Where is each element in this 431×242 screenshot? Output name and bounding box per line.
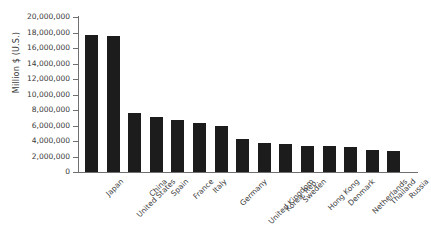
bar-slot: [232, 17, 254, 172]
y-axis-tick-label: 14,000,000: [6, 59, 70, 68]
y-axis-tick: [73, 95, 78, 96]
x-axis-line: [78, 172, 418, 173]
y-axis-tick: [73, 126, 78, 127]
bar-slot: [124, 17, 146, 172]
bar: [193, 123, 206, 172]
y-axis-tick: [73, 172, 78, 173]
y-axis-tick-label: 10,000,000: [6, 90, 70, 99]
y-axis-tick-label: 8,000,000: [6, 105, 70, 114]
bar-slot: [340, 17, 362, 172]
bar-slot: [81, 17, 103, 172]
y-axis-tick-label: 4,000,000: [6, 136, 70, 145]
bar-slot: [383, 17, 405, 172]
y-axis-tick-label: 16,000,000: [6, 43, 70, 52]
bar-slot: [319, 17, 341, 172]
bar: [128, 113, 141, 172]
bar-slot: [189, 17, 211, 172]
bar-slot: [211, 17, 233, 172]
bar: [236, 139, 249, 172]
x-axis-tick-group: JapanUnited StatesChinaSpainFranceItalyG…: [79, 175, 416, 242]
y-axis-tick-group: 20,000,00018,000,00016,000,00014,000,000…: [0, 0, 79, 242]
bar: [171, 120, 184, 172]
bar-slot: [254, 17, 276, 172]
bar-slot: [146, 17, 168, 172]
y-axis-tick: [73, 79, 78, 80]
bar-slot: [297, 17, 319, 172]
bar: [344, 147, 357, 172]
bar-slot: [275, 17, 297, 172]
y-axis-tick-label: 12,000,000: [6, 74, 70, 83]
bar: [215, 126, 228, 172]
y-axis-tick: [73, 110, 78, 111]
bar: [107, 36, 120, 172]
y-axis-tick-label: 6,000,000: [6, 121, 70, 130]
y-axis-tick: [73, 64, 78, 65]
bar: [258, 143, 271, 172]
y-axis-tick: [73, 48, 78, 49]
bar-slot: [362, 17, 384, 172]
y-axis-tick-label: 18,000,000: [6, 28, 70, 37]
bar-slot: [167, 17, 189, 172]
bar-slot: [103, 17, 125, 172]
y-axis-tick-label: 0: [6, 167, 70, 176]
x-axis-tick-label: Germany: [238, 177, 269, 208]
y-axis-tick: [73, 141, 78, 142]
bar: [85, 35, 98, 172]
bar: [150, 117, 163, 172]
plot-area: [79, 17, 416, 172]
x-axis-tick-label: Italy: [211, 177, 229, 195]
bar: [366, 150, 379, 172]
y-axis-tick: [73, 157, 78, 158]
y-axis-tick-label: 2,000,000: [6, 152, 70, 161]
y-axis-tick: [73, 17, 78, 18]
x-axis-tick-label: Japan: [104, 177, 125, 198]
bar: [279, 144, 292, 172]
bar: [387, 151, 400, 172]
bar: [301, 146, 314, 172]
y-axis-tick-label: 20,000,000: [6, 12, 70, 21]
y-axis-tick: [73, 33, 78, 34]
bar: [323, 146, 336, 172]
